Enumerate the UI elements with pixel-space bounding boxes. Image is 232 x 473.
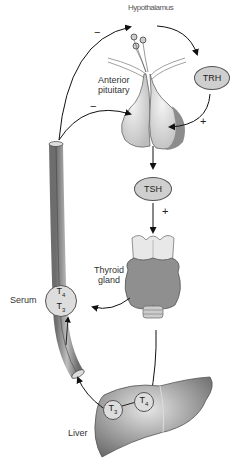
- hypothalamus-negative-sign: −: [94, 26, 100, 38]
- serum-label: Serum: [10, 295, 37, 305]
- serum-t4-t3-circle: T4 T3: [45, 285, 77, 317]
- liver-t4-circle: T4: [134, 392, 154, 412]
- pituitary-negative-sign: −: [90, 100, 96, 112]
- tsh-badge: TSH: [134, 177, 172, 201]
- thyroid-gland-label: Thyroid gland: [94, 265, 124, 285]
- liver-t3-circle: T3: [103, 400, 123, 420]
- anterior-pituitary-shape: [121, 74, 184, 150]
- thyroid-gland-shape: [125, 235, 180, 318]
- hypothalamus-label: Hypothalamus: [128, 3, 173, 12]
- serum-t4: T4: [57, 286, 66, 301]
- trh-positive-sign: +: [200, 115, 206, 127]
- tsh-positive-sign: +: [162, 205, 168, 217]
- blood-vessel: [49, 142, 86, 381]
- trh-badge: TRH: [194, 66, 230, 90]
- serum-t3: T3: [57, 301, 66, 316]
- liver-label: Liver: [68, 428, 88, 438]
- anterior-pituitary-label: Anterior pituitary: [98, 75, 130, 95]
